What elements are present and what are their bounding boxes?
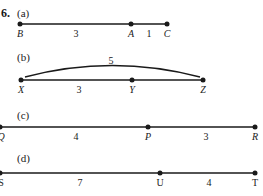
point-T (253, 171, 258, 176)
part-label-a: (a) (17, 8, 29, 19)
part-label-d: (d) (17, 153, 30, 164)
length-label-XY: 3 (77, 85, 82, 95)
point-label-Z: Z (200, 85, 206, 95)
point-R (253, 125, 258, 130)
point-label-T: T (252, 178, 258, 188)
length-label-UT: 4 (207, 178, 212, 188)
length-label-BA: 3 (74, 29, 79, 39)
point-label-X: X (18, 85, 24, 95)
point-P (146, 125, 151, 130)
arc-b (25, 66, 200, 78)
part-label-b: (b) (17, 52, 30, 63)
point-A (129, 22, 134, 27)
point-label-S: S (0, 178, 4, 188)
point-label-C: C (164, 29, 171, 39)
point-Y (130, 78, 135, 83)
point-U (158, 171, 163, 176)
point-label-Q: Q (0, 132, 5, 142)
part-label-c: (c) (17, 110, 29, 121)
point-label-R: R (252, 132, 258, 142)
length-label-AC: 1 (147, 29, 152, 39)
point-label-A: A (128, 29, 134, 39)
problem-number: 6. (1, 8, 10, 19)
point-Q (0, 125, 3, 130)
arc-length-label-XZ: 5 (109, 56, 114, 66)
length-label-SU: 7 (78, 178, 83, 188)
point-Z (201, 78, 206, 83)
length-label-QP: 4 (74, 132, 79, 142)
point-X (19, 78, 24, 83)
length-label-PR: 3 (204, 132, 209, 142)
point-label-P: P (145, 132, 151, 142)
point-label-U: U (156, 178, 163, 188)
point-label-Y: Y (129, 85, 135, 95)
point-label-B: B (17, 29, 23, 39)
point-B (18, 22, 23, 27)
point-C (165, 22, 170, 27)
point-S (0, 171, 3, 176)
